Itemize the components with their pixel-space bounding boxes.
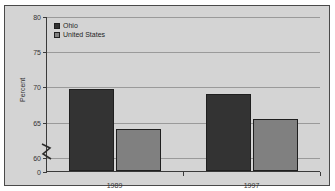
chart-title-clipped: Percent ... 1989 and 1997 — [0, 0, 335, 4]
legend-label: United States — [63, 31, 105, 38]
y-tick-mark — [43, 87, 47, 88]
x-tick-mark — [320, 172, 321, 176]
axis-break-icon — [39, 142, 54, 162]
plot-area: 60657075800 19891997 — [46, 17, 320, 172]
y-tick-mark-zero — [43, 172, 47, 173]
gridline — [46, 52, 320, 53]
y-tick-mark — [43, 123, 47, 124]
chart-figure: Percent ... 1989 and 1997 Percent 606570… — [0, 0, 335, 191]
bar-ohio-1989 — [69, 89, 114, 171]
bar-united-states-1997 — [253, 119, 298, 171]
legend-label: Ohio — [63, 22, 78, 29]
gridline — [46, 17, 320, 18]
y-tick-label: 70 — [33, 84, 41, 91]
bar-united-states-1989 — [116, 129, 161, 171]
legend-swatch-icon — [54, 23, 60, 29]
x-tick-mark — [183, 172, 184, 176]
x-tick-label: 1997 — [244, 182, 260, 189]
x-tick-label: 1989 — [107, 182, 123, 189]
chart-frame: Percent 60657075800 19891997 OhioUnited … — [4, 5, 330, 186]
legend-swatch-icon — [54, 32, 60, 38]
y-tick-label: 75 — [33, 49, 41, 56]
y-tick-label: 65 — [33, 119, 41, 126]
chart-legend: OhioUnited States — [54, 22, 105, 38]
y-tick-label: 80 — [33, 14, 41, 21]
y-axis-title: Percent — [19, 78, 26, 102]
chart-title: Percent ... 1989 and 1997 — [0, 0, 335, 2]
legend-item: United States — [54, 31, 105, 38]
legend-item: Ohio — [54, 22, 105, 29]
y-tick-mark — [43, 52, 47, 53]
y-tick-mark — [43, 17, 47, 18]
y-tick-label-zero: 0 — [37, 169, 41, 176]
bar-ohio-1997 — [206, 94, 251, 172]
